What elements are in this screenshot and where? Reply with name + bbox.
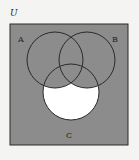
set-label-c: C [66, 131, 72, 140]
set-label-a: A [17, 35, 24, 44]
venn-diagram: U A B C [0, 0, 139, 160]
set-label-b: B [112, 35, 118, 44]
